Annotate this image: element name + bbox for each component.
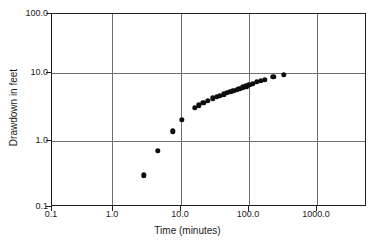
x-tick-label: 1000.0 — [302, 210, 330, 219]
x-tick-label: 0.1 — [45, 210, 58, 219]
gridline-x — [317, 14, 318, 205]
x-tick-label: 100.0 — [237, 210, 260, 219]
gridline-x — [249, 14, 250, 205]
gridline-x — [112, 14, 113, 205]
y-tick-label: 0.1 — [35, 202, 48, 211]
gridline-x — [181, 14, 182, 205]
x-axis-title: Time (minutes) — [0, 225, 375, 236]
y-axis-title: Drawdown in feet — [8, 33, 19, 183]
x-tick-label: 10.0 — [171, 210, 189, 219]
gridline-y — [52, 73, 365, 74]
chart-root: 0.1 1.0 10.0 100.0 1000.0 0.1 1.0 10.0 1… — [0, 0, 375, 244]
plot-area — [51, 13, 366, 206]
x-tick-label: 1.0 — [106, 210, 119, 219]
y-tick-label: 1.0 — [35, 136, 48, 145]
y-tick-label: 100.0 — [25, 9, 48, 18]
y-tick-label: 10.0 — [30, 68, 48, 77]
gridline-y — [52, 141, 365, 142]
